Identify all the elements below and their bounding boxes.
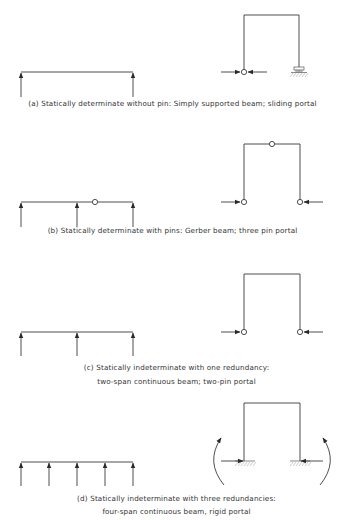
roller-support-icon — [290, 67, 308, 77]
portal-frame — [244, 15, 299, 70]
caption-d: (d) Statically indeterminate with three … — [0, 494, 345, 516]
moment-arrow-icon — [320, 438, 330, 485]
fixed-support-icon — [235, 461, 256, 466]
portal-frame-left — [244, 144, 269, 199]
panel-b-portal — [221, 141, 323, 204]
caption-b: (b) Statically determinate with pins: Ge… — [0, 226, 345, 235]
pin-support-icon — [297, 199, 302, 204]
pin-support-icon — [297, 329, 302, 334]
caption-line: four-span continuous beam, rigid portal — [8, 507, 345, 516]
portal-frame — [244, 403, 300, 461]
structural-diagrams — [0, 0, 345, 520]
caption-c: (c) Statically indeterminate with one re… — [0, 363, 345, 386]
panel-a-beam — [21, 72, 133, 97]
pin-support-icon — [241, 329, 246, 334]
portal-frame — [244, 274, 300, 329]
caption-line: (b) Statically determinate with pins: Ge… — [0, 226, 345, 235]
panel-b-beam — [21, 199, 133, 227]
panel-a-portal — [221, 15, 308, 77]
caption-line: two-span continuous beam; two-pin portal — [8, 377, 345, 386]
portal-frame-right — [275, 144, 300, 199]
pin-support-icon — [241, 69, 246, 74]
caption-line: (d) Statically indeterminate with three … — [8, 494, 345, 503]
panel-d-beam — [21, 462, 133, 486]
caption-a: (a) Statically determinate without pin: … — [0, 99, 345, 108]
caption-line: (c) Statically indeterminate with one re… — [8, 363, 345, 372]
top-pin-icon — [269, 141, 274, 146]
moment-arrow-icon — [214, 438, 224, 485]
panel-c-beam — [21, 332, 133, 356]
panel-d-portal — [214, 403, 331, 485]
internal-pin-icon — [92, 199, 97, 204]
pin-support-icon — [241, 199, 246, 204]
caption-line: (a) Statically determinate without pin: … — [0, 99, 345, 108]
panel-c-portal — [221, 274, 323, 335]
fixed-support-icon — [290, 461, 311, 466]
